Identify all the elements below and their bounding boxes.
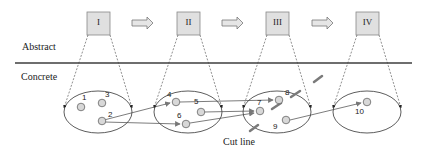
concrete-label: Concrete [21,71,57,82]
projection-lines [64,35,401,108]
node-label-4: 4 [167,90,171,99]
node-label-5: 5 [194,97,198,106]
concrete-state-sets [64,91,401,133]
node-label-7: 7 [257,98,261,107]
node-label-8: 8 [285,88,289,97]
node-label-10: 10 [355,107,364,116]
abstract-state-label-II: II [177,17,200,27]
abstract-state-label-III: III [266,17,289,27]
transition-arrow-icon [132,17,333,29]
node-label-1: 1 [82,93,86,102]
abstract-state-label-I: I [87,17,110,27]
node-label-3: 3 [105,90,109,99]
cut-line-label: Cut line [223,136,255,147]
abstract-label: Abstract [22,41,56,52]
concrete-transitions [104,100,361,124]
node-label-9: 9 [273,122,277,131]
abstract-state-label-IV: IV [356,17,379,27]
node-label-6: 6 [177,111,181,120]
node-label-2: 2 [108,110,112,119]
